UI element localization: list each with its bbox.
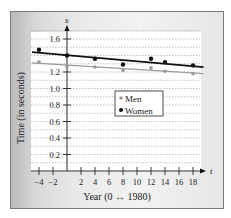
data-point [93,65,97,69]
x-tick-label: 2 [79,177,83,187]
data-point [191,63,195,67]
data-point [121,69,125,73]
data-point [163,69,167,73]
legend-men-label: Men [125,94,142,104]
y-tick-label: 1.6 [49,34,60,44]
y-axis-label: Time (in seconds) [15,72,27,144]
y-tick-label: 0.6 [49,117,60,127]
x-tick-label: 16 [175,177,184,187]
legend-women-marker-icon [119,108,123,112]
x-tick-label: 10 [133,177,142,187]
data-point [65,64,69,68]
data-point [93,57,97,61]
x-tick-label: 8 [121,177,125,187]
y-axis-variable: s [65,15,69,25]
data-point [65,53,69,57]
data-point [37,60,41,64]
y-tick-label: 1.0 [49,84,60,94]
x-tick-label: 18 [189,177,198,187]
x-tick-label: −4 [34,177,44,187]
data-point [37,48,41,52]
x-tick-label: −2 [48,177,57,187]
data-point [121,62,125,66]
x-tick-label: 12 [147,177,156,187]
legend-women-label: Women [125,106,153,116]
chart: ts−4−2246810121416180.20.40.60.81.01.21.… [0,0,231,218]
y-tick-label: 0.2 [49,150,60,160]
y-axis-arrow-icon [65,25,70,31]
y-tick-label: 0.8 [49,100,60,110]
data-point [149,66,153,70]
legend-men-marker-icon [119,96,123,100]
y-tick-label: 0.4 [49,133,60,143]
y-tick-label: 1.2 [49,67,60,77]
x-tick-label: 14 [161,177,170,187]
data-point [149,57,153,61]
x-axis-variable: t [210,166,213,176]
data-point [163,60,167,64]
x-axis-label: Year (0 ↔ 1980) [83,191,151,203]
x-tick-label: 6 [107,177,111,187]
x-tick-label: 4 [93,177,98,187]
x-axis-arrow-icon [200,169,206,174]
legend: MenWomen [115,91,163,116]
data-point [191,72,195,76]
